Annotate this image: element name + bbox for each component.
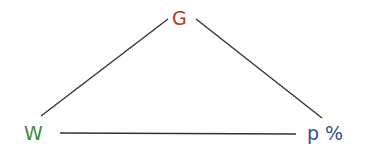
edge-g-p xyxy=(196,19,322,118)
node-p-label: p % xyxy=(307,124,343,143)
node-g-label: G xyxy=(172,9,187,28)
edge-w-g xyxy=(41,19,168,116)
edge-w-p xyxy=(60,133,296,134)
triangle-diagram: G W p % xyxy=(0,0,366,158)
node-w-label: W xyxy=(24,124,43,143)
